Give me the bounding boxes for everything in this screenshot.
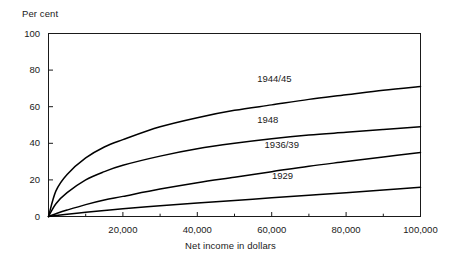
series-label-1948: 1948 [257, 114, 278, 125]
x-tick-label: 80,000 [311, 224, 381, 235]
y-tick-label: 20 [6, 174, 40, 185]
axis-ticks [49, 70, 384, 216]
series-label-1929: 1929 [272, 170, 293, 181]
y-tick-label: 40 [6, 137, 40, 148]
x-tick-label: 20,000 [88, 224, 158, 235]
x-tick-label: 40,000 [162, 224, 232, 235]
chart-container: Per cent Net income in dollars 020406080… [0, 0, 461, 266]
y-axis-title: Per cent [22, 8, 58, 19]
y-tick-label: 100 [6, 28, 40, 39]
plot-frame [49, 34, 421, 217]
y-tick-label: 0 [6, 211, 40, 222]
x-tick-label: 100,000 [386, 224, 456, 235]
series-lines [49, 87, 421, 217]
x-tick-label: 60,000 [237, 224, 307, 235]
x-axis-title: Net income in dollars [0, 240, 461, 251]
y-tick-label: 60 [6, 101, 40, 112]
series-label-1944-45: 1944/45 [257, 73, 291, 84]
series-label-1936-39: 1936/39 [265, 139, 299, 150]
y-tick-label: 80 [6, 64, 40, 75]
